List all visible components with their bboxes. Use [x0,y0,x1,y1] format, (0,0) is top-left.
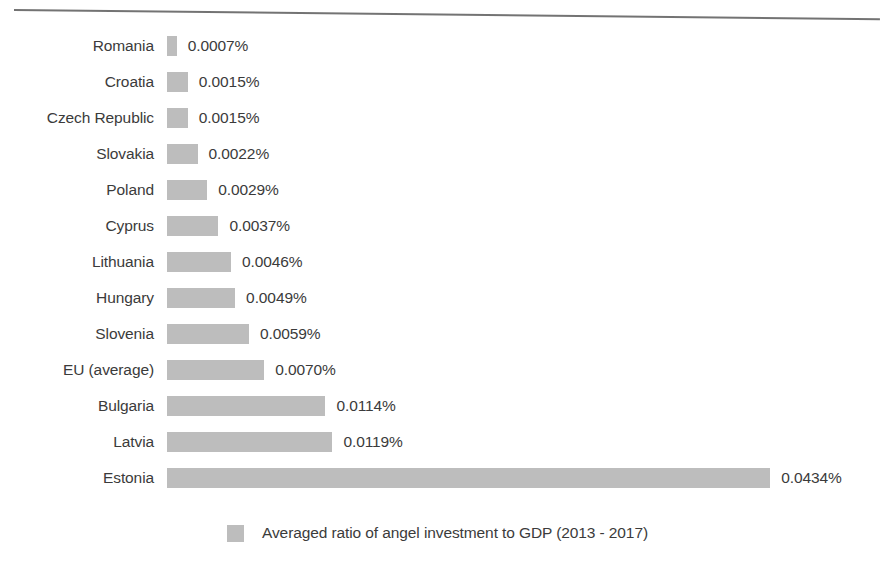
chart-row: Slovakia0.0022% [0,136,884,172]
bar-value-label: 0.0037% [229,217,290,235]
bar-track: 0.0119% [167,424,884,460]
chart-row: Lithuania0.0046% [0,244,884,280]
bar-value-label: 0.0022% [209,145,270,163]
bar [167,252,231,272]
chart-row: Czech Republic0.0015% [0,100,884,136]
bar [167,432,332,452]
category-label: Romania [0,37,167,55]
category-label: Cyprus [0,217,167,235]
chart-row: Bulgaria0.0114% [0,388,884,424]
legend-swatch-icon [227,525,244,542]
bar [167,360,264,380]
bar-track: 0.0114% [167,388,884,424]
bar [167,468,770,488]
category-label: Estonia [0,469,167,487]
chart-row: Hungary0.0049% [0,280,884,316]
bar [167,324,249,344]
category-label: Poland [0,181,167,199]
bar-value-label: 0.0029% [218,181,279,199]
chart-row: Estonia0.0434% [0,460,884,496]
bar-value-label: 0.0434% [781,469,842,487]
bar-track: 0.0015% [167,100,884,136]
bar-track: 0.0049% [167,280,884,316]
chart-row: Cyprus0.0037% [0,208,884,244]
bar-track: 0.0007% [167,28,884,64]
category-label: Czech Republic [0,109,167,127]
bar-value-label: 0.0059% [260,325,321,343]
category-label: Slovakia [0,145,167,163]
bar-track: 0.0015% [167,64,884,100]
bar-track: 0.0037% [167,208,884,244]
bar [167,72,188,92]
chart-row: Slovenia0.0059% [0,316,884,352]
bar [167,288,235,308]
chart-row: Poland0.0029% [0,172,884,208]
bar-value-label: 0.0046% [242,253,303,271]
chart-row: Latvia0.0119% [0,424,884,460]
bar [167,108,188,128]
bar-value-label: 0.0049% [246,289,307,307]
bar [167,180,207,200]
bar [167,36,177,56]
bar-track: 0.0434% [167,460,884,496]
chart-row: Romania0.0007% [0,28,884,64]
bar-value-label: 0.0015% [199,109,260,127]
bar-track: 0.0046% [167,244,884,280]
bar-chart: Romania0.0007%Croatia0.0015%Czech Republ… [0,28,884,508]
category-label: Lithuania [0,253,167,271]
bar-value-label: 0.0015% [199,73,260,91]
bar [167,144,198,164]
category-label: Bulgaria [0,397,167,415]
bar-value-label: 0.0119% [343,433,402,451]
bar-value-label: 0.0007% [188,37,249,55]
category-label: Latvia [0,433,167,451]
legend-label: Averaged ratio of angel investment to GD… [262,524,648,542]
chart-row: EU (average)0.0070% [0,352,884,388]
category-label: Hungary [0,289,167,307]
category-label: EU (average) [0,361,167,379]
bar-track: 0.0029% [167,172,884,208]
category-label: Slovenia [0,325,167,343]
bar [167,216,218,236]
bar-track: 0.0070% [167,352,884,388]
bar [167,396,325,416]
chart-legend: Averaged ratio of angel investment to GD… [0,524,884,542]
bar-track: 0.0022% [167,136,884,172]
bar-value-label: 0.0070% [275,361,336,379]
bar-value-label: 0.0114% [336,397,395,415]
category-label: Croatia [0,73,167,91]
page-top-rule [14,9,880,20]
chart-row: Croatia0.0015% [0,64,884,100]
bar-track: 0.0059% [167,316,884,352]
